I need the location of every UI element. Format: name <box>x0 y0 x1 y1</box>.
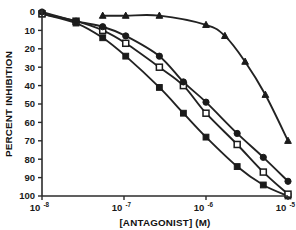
markers-filled-circles <box>39 9 291 184</box>
y-tick-label: 0 <box>30 6 35 17</box>
data-point <box>180 79 186 85</box>
data-point <box>123 40 129 46</box>
y-tick-label: 20 <box>24 43 35 54</box>
markers-filled-squares <box>39 11 291 199</box>
data-point <box>234 130 240 136</box>
data-point <box>234 164 240 170</box>
y-tick-label: 80 <box>24 154 35 165</box>
svg-text:-7: -7 <box>126 201 132 208</box>
y-tick-label: 90 <box>24 172 35 183</box>
axes-layer <box>42 10 288 196</box>
data-point <box>203 134 209 140</box>
x-tick-label: 10-7 <box>112 201 132 214</box>
y-tick-label: 10 <box>24 25 35 36</box>
y-tick-label: 70 <box>24 135 35 146</box>
y-tick-label: 30 <box>24 62 35 73</box>
y-axis-ticks: 0102030405060708090100 <box>19 6 42 201</box>
chart-figure: 0102030405060708090100 10-810-710-610-5 … <box>0 0 296 230</box>
markers-open-squares <box>39 11 291 197</box>
data-point <box>260 154 266 160</box>
svg-text:10: 10 <box>194 202 205 213</box>
svg-text:-6: -6 <box>208 201 214 208</box>
data-point <box>73 18 79 24</box>
x-tick-label: 10-8 <box>30 201 50 214</box>
svg-text:10: 10 <box>276 202 287 213</box>
y-tick-label: 40 <box>24 80 35 91</box>
y-tick-label: 50 <box>24 98 35 109</box>
curve-filled-triangles <box>103 15 288 141</box>
dose-response-plot: 0102030405060708090100 10-810-710-610-5 … <box>0 0 296 230</box>
data-point <box>180 110 186 116</box>
curves-layer <box>42 12 288 196</box>
svg-text:-5: -5 <box>290 201 296 208</box>
y-axis-title: PERCENT INHIBITION <box>3 51 14 157</box>
data-point <box>100 35 106 41</box>
y-tick-label: 100 <box>19 190 35 201</box>
x-tick-label: 10-5 <box>276 201 296 214</box>
data-point <box>100 24 106 30</box>
data-point <box>203 110 209 116</box>
data-point <box>156 85 162 91</box>
x-tick-label: 10-6 <box>194 201 214 214</box>
svg-text:10: 10 <box>112 202 123 213</box>
data-point <box>123 33 129 39</box>
y-tick-label: 60 <box>24 117 35 128</box>
curve-filled-squares <box>42 14 288 196</box>
curve-open-squares <box>42 14 288 194</box>
data-point <box>285 178 291 184</box>
data-point <box>156 64 162 70</box>
data-point <box>260 169 266 175</box>
markers-layer <box>39 9 291 199</box>
curve-filled-circles <box>42 12 288 181</box>
x-axis-ticks: 10-810-710-610-5 <box>30 196 296 213</box>
x-axis-title: [ANTAGONIST] (M) <box>119 217 210 228</box>
data-point <box>203 99 209 105</box>
data-point <box>234 141 240 147</box>
data-point <box>123 53 129 59</box>
svg-text:-8: -8 <box>44 201 50 208</box>
svg-text:10: 10 <box>30 202 41 213</box>
data-point <box>260 182 266 188</box>
markers-filled-triangles <box>99 12 291 143</box>
data-point <box>156 53 162 59</box>
